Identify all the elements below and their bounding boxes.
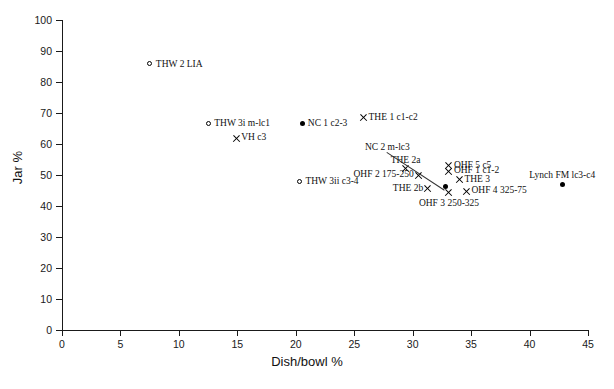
y-tick — [56, 206, 62, 207]
data-point-marker[interactable] — [560, 182, 565, 187]
x-tick — [588, 330, 589, 336]
y-tick — [56, 113, 62, 114]
x-tick — [413, 330, 414, 336]
x-axis-line — [62, 330, 588, 331]
x-tick — [120, 330, 121, 336]
y-tick-label: 60 — [0, 139, 52, 149]
x-tick-label: 35 — [451, 338, 491, 350]
x-tick-label: 10 — [159, 338, 199, 350]
data-point-label: OHF 4 325-75 — [471, 185, 526, 195]
x-tick-label: 45 — [568, 338, 608, 350]
data-point-label: THE 3 — [464, 174, 490, 184]
x-tick-label: 25 — [334, 338, 374, 350]
y-tick-label: 80 — [0, 77, 52, 87]
data-point-marker[interactable] — [455, 175, 464, 184]
y-tick — [56, 268, 62, 269]
y-tick — [56, 175, 62, 176]
data-point-label: THE 2b — [393, 183, 423, 193]
y-axis-line — [62, 20, 63, 331]
data-point-marker[interactable] — [444, 167, 453, 176]
data-point-marker[interactable] — [206, 121, 211, 126]
data-point-marker[interactable] — [232, 134, 241, 143]
x-tick — [237, 330, 238, 336]
y-tick-label: 10 — [0, 294, 52, 304]
y-tick — [56, 20, 62, 21]
data-point-label: Lynch FM lc3-c4 — [529, 170, 595, 180]
data-point-label: THE 1 c1-c2 — [369, 112, 418, 122]
data-point-marker[interactable] — [423, 184, 432, 193]
data-point-marker[interactable] — [359, 113, 368, 122]
data-point-label: OHF 2 175-250 — [354, 169, 414, 179]
data-point-label: THW 3i m-lc1 — [214, 118, 270, 128]
y-tick — [56, 299, 62, 300]
y-tick-label: 100 — [0, 15, 52, 25]
y-tick-label: 50 — [0, 170, 52, 180]
y-tick-label: 40 — [0, 201, 52, 211]
scatter-plot: 0102030405060708090100 05101520253035404… — [0, 0, 614, 389]
x-tick — [296, 330, 297, 336]
data-point-label: THW 2 LIA — [156, 59, 203, 69]
data-point-label: OHF 3 250-325 — [419, 198, 479, 208]
y-tick — [56, 237, 62, 238]
x-tick-label: 20 — [276, 338, 316, 350]
y-tick — [56, 51, 62, 52]
y-tick-label: 20 — [0, 263, 52, 273]
x-tick — [530, 330, 531, 336]
data-point-label: NC 2 m-lc3 — [365, 142, 410, 152]
x-tick-label: 40 — [510, 338, 550, 350]
data-point-label: NC 1 c2-3 — [308, 118, 348, 128]
x-tick — [471, 330, 472, 336]
y-axis-title: Jar % — [10, 123, 25, 213]
y-tick-label: 70 — [0, 108, 52, 118]
data-point-marker[interactable] — [147, 61, 152, 66]
data-point-marker[interactable] — [297, 179, 302, 184]
y-tick-label: 30 — [0, 232, 52, 242]
x-tick-label: 15 — [217, 338, 257, 350]
data-point-marker[interactable] — [444, 188, 453, 197]
data-point-marker[interactable] — [300, 121, 305, 126]
x-tick-label: 30 — [393, 338, 433, 350]
x-axis-title: Dish/bowl % — [0, 354, 614, 369]
data-point-marker[interactable] — [462, 187, 471, 196]
data-point-label: VH c3 — [241, 132, 266, 142]
data-point-label: THW 3ii c3-4 — [305, 176, 358, 186]
y-tick-label: 0 — [0, 325, 52, 335]
y-tick — [56, 82, 62, 83]
x-tick — [354, 330, 355, 336]
x-tick — [62, 330, 63, 336]
x-tick-label: 0 — [42, 338, 82, 350]
x-tick-label: 5 — [100, 338, 140, 350]
y-tick-label: 90 — [0, 46, 52, 56]
y-tick — [56, 144, 62, 145]
x-tick — [179, 330, 180, 336]
